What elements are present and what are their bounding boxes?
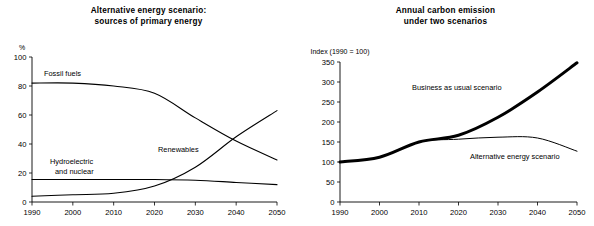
x-tick-label: 2050: [269, 208, 286, 217]
x-tick-label: 2000: [371, 208, 388, 217]
y-tick-label: 0: [330, 198, 334, 207]
series-line: [340, 63, 577, 162]
series-line: [32, 179, 277, 184]
chart-page: Alternative energy scenario: sources of …: [0, 0, 594, 226]
y-tick-label: 100: [14, 53, 27, 62]
chart-panel-carbon-emission: Annual carbon emission under two scenari…: [297, 0, 594, 226]
x-tick-label: 1990: [332, 208, 349, 217]
y-tick-label: 50: [326, 178, 334, 187]
y-axis-unit-label: Index (1990 = 100): [311, 48, 370, 56]
y-tick-label: 100: [322, 158, 335, 167]
x-tick-label: 2010: [411, 208, 428, 217]
y-tick-label: 300: [322, 78, 335, 87]
y-axis-unit-label: %: [19, 44, 25, 51]
y-tick-label: 150: [322, 138, 335, 147]
y-tick-label: 350: [322, 58, 335, 67]
hydro-nuclear-label-line1: Hydroelectric: [50, 157, 93, 166]
chart-axes: [32, 57, 277, 202]
renewables-label: Renewables: [158, 145, 199, 154]
hydro-nuclear-label-line2: and nuclear: [55, 167, 94, 176]
y-tick-label: 20: [18, 169, 26, 178]
y-tick-label: 60: [18, 111, 26, 120]
chart-svg-carbon-emission: Index (1990 = 100)0501001502002503003501…: [297, 0, 594, 226]
chart-svg-alternative-energy: %020406080100199020002010202020302040205…: [0, 0, 297, 226]
chart-panel-alternative-energy: Alternative energy scenario: sources of …: [0, 0, 297, 226]
x-tick-label: 2040: [228, 208, 245, 217]
y-tick-label: 80: [18, 82, 26, 91]
y-tick-label: 250: [322, 98, 335, 107]
alternative-energy-label: Alternative energy scenario: [470, 152, 560, 161]
y-tick-label: 40: [18, 140, 26, 149]
x-tick-label: 2030: [187, 208, 204, 217]
x-tick-label: 2040: [529, 208, 546, 217]
y-tick-label: 200: [322, 118, 335, 127]
x-tick-label: 1990: [24, 208, 41, 217]
x-tick-label: 2020: [146, 208, 163, 217]
x-tick-label: 2050: [569, 208, 586, 217]
x-tick-label: 2000: [64, 208, 81, 217]
x-tick-label: 2020: [450, 208, 467, 217]
series-line: [32, 83, 277, 160]
series-line: [32, 111, 277, 197]
x-tick-label: 2010: [105, 208, 122, 217]
business-as-usual-label: Business as usual scenario: [412, 83, 502, 92]
fossil-fuels-label: Fossil fuels: [44, 69, 81, 78]
y-tick-label: 0: [22, 198, 26, 207]
x-tick-label: 2030: [490, 208, 507, 217]
